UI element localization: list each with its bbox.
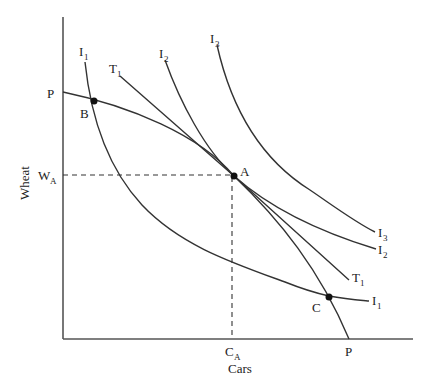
i1-right-label: I 1 — [372, 293, 382, 311]
svg-text:A: A — [50, 176, 57, 186]
cars-a-label: C A — [225, 344, 241, 362]
svg-text:I: I — [210, 31, 214, 46]
ppf-x-intercept-label: P — [345, 344, 352, 359]
indifference-curve-i1 — [85, 62, 369, 301]
svg-text:I: I — [378, 242, 382, 257]
point-b — [91, 98, 98, 105]
svg-text:2: 2 — [164, 54, 169, 64]
point-a — [231, 173, 238, 180]
point-a-label: A — [240, 164, 250, 179]
t1-bottom-label: T 1 — [352, 270, 365, 288]
trade-diagram: A B C P P I 1 I 1 T 1 T 1 I 2 I 2 I 3 I … — [0, 0, 435, 390]
x-axis-title: Cars — [228, 361, 252, 376]
svg-text:I: I — [79, 44, 83, 59]
ppf-y-intercept-label: P — [47, 86, 54, 101]
svg-text:T: T — [109, 61, 117, 76]
i2-right-label: I 2 — [378, 242, 388, 260]
svg-text:1: 1 — [117, 69, 122, 79]
production-possibility-frontier — [63, 92, 349, 339]
svg-text:3: 3 — [215, 39, 220, 49]
point-c — [326, 294, 333, 301]
svg-text:1: 1 — [377, 301, 382, 311]
indifference-curve-i3 — [217, 45, 375, 232]
i2-top-label: I 2 — [159, 46, 169, 64]
i1-top-label: I 1 — [79, 44, 89, 62]
svg-text:1: 1 — [360, 278, 365, 288]
svg-text:T: T — [352, 270, 360, 285]
t1-top-label: T 1 — [109, 61, 122, 79]
svg-text:I: I — [378, 225, 382, 240]
point-b-label: B — [80, 106, 89, 121]
wheat-a-label: W A — [38, 168, 57, 186]
point-c-label: C — [312, 300, 321, 315]
svg-text:2: 2 — [383, 250, 388, 260]
i3-top-label: I 3 — [210, 31, 220, 49]
svg-text:I: I — [372, 293, 376, 308]
svg-text:1: 1 — [84, 52, 89, 62]
indifference-curve-i2 — [165, 60, 376, 249]
i3-right-label: I 3 — [378, 225, 388, 243]
svg-text:C: C — [225, 344, 234, 359]
svg-text:3: 3 — [383, 233, 388, 243]
svg-text:I: I — [159, 46, 163, 61]
y-axis-title: Wheat — [17, 166, 32, 200]
